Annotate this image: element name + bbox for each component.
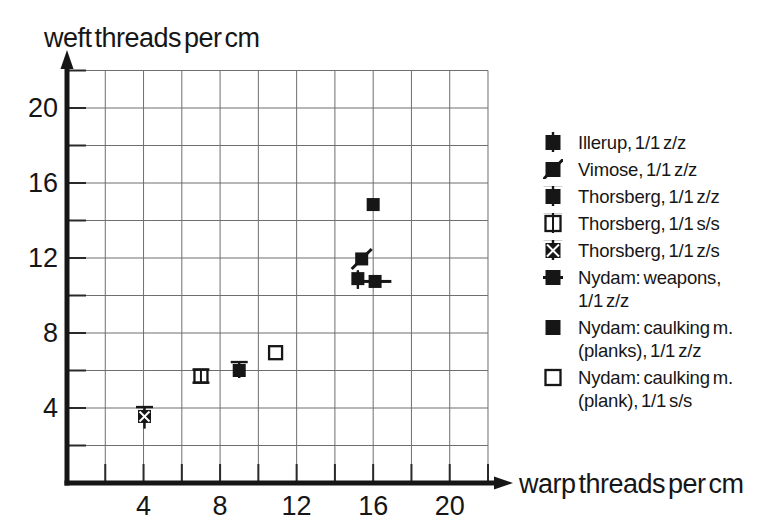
y-tick-label: 8 bbox=[43, 318, 58, 348]
x-tick-label: 16 bbox=[358, 491, 388, 521]
legend-marker-square-hline-icon bbox=[543, 267, 563, 287]
y-tick-label: 20 bbox=[28, 93, 58, 123]
data-point bbox=[367, 198, 380, 211]
legend-label: Illerup, 1/1 z/z bbox=[578, 131, 686, 154]
y-axis-arrowhead-icon bbox=[61, 50, 74, 69]
marker-square bbox=[367, 198, 380, 211]
marker-square bbox=[546, 370, 561, 385]
legend-marker-square-icon bbox=[543, 317, 563, 337]
data-point bbox=[351, 270, 364, 289]
x-tick-label: 8 bbox=[213, 491, 228, 521]
y-tick-label: 16 bbox=[28, 168, 58, 198]
legend-marker-square-slash-icon bbox=[543, 159, 563, 179]
x-tick-label: 20 bbox=[435, 491, 465, 521]
legend-item: Thorsberg, 1/1 z/z bbox=[543, 185, 781, 208]
plot-grid bbox=[67, 71, 488, 484]
legend-item: Nydam: weapons, 1/1 z/z bbox=[543, 266, 781, 312]
tick-labels: 4812162048121620 bbox=[28, 93, 465, 521]
scanned-scatter-figure: weft threads per cm 4812162048121620 war… bbox=[0, 0, 781, 531]
data-point bbox=[352, 249, 372, 269]
y-tick-label: 12 bbox=[28, 243, 58, 273]
data-point bbox=[192, 370, 209, 383]
marker-square bbox=[546, 270, 561, 285]
marker-square bbox=[546, 189, 561, 204]
legend-label: Thorsberg, 1/1 z/z bbox=[578, 185, 720, 208]
legend-item: Vimose, 1/1 z/z bbox=[543, 158, 781, 181]
legend-marker-square-tcap-icon bbox=[543, 186, 563, 206]
marker-square bbox=[546, 320, 561, 335]
y-tick-label: 4 bbox=[43, 393, 58, 423]
legend: Illerup, 1/1 z/zVimose, 1/1 z/zThorsberg… bbox=[543, 131, 781, 416]
legend-item: Nydam: caulking m. (plank), 1/1 s/s bbox=[543, 366, 781, 412]
legend-label: Nydam: weapons, 1/1 z/z bbox=[578, 266, 721, 312]
x-tick-label: 12 bbox=[282, 491, 312, 521]
legend-marker-osquare-ibeam-icon bbox=[543, 213, 563, 233]
marker-square bbox=[369, 275, 382, 288]
data-point bbox=[136, 407, 153, 429]
legend-marker-square-x-cap-icon bbox=[543, 240, 563, 260]
marker-square bbox=[351, 272, 364, 285]
data-point bbox=[269, 346, 282, 359]
legend-label: Vimose, 1/1 z/z bbox=[578, 158, 697, 181]
slash-mark bbox=[352, 249, 372, 269]
marker-square bbox=[269, 346, 282, 359]
marker-square bbox=[546, 135, 561, 150]
legend-item: Nydam: caulking m. (planks), 1/1 z/z bbox=[543, 316, 781, 362]
legend-marker-osquare-icon bbox=[543, 367, 563, 387]
legend-label: Nydam: caulking m. (plank), 1/1 s/s bbox=[578, 366, 733, 412]
data-point bbox=[364, 275, 392, 288]
marker-square bbox=[233, 364, 246, 377]
legend-marker-square-vline-icon bbox=[543, 132, 563, 152]
x-axis-title: warp threads per cm bbox=[519, 469, 744, 500]
legend-label: Nydam: caulking m. (planks), 1/1 z/z bbox=[578, 316, 733, 362]
x-axis-arrowhead-icon bbox=[494, 477, 513, 490]
legend-label: Thorsberg, 1/1 z/s bbox=[578, 239, 720, 262]
axis-ticks bbox=[69, 71, 488, 482]
data-point bbox=[231, 362, 248, 378]
legend-label: Thorsberg, 1/1 s/s bbox=[578, 212, 720, 235]
legend-item: Illerup, 1/1 z/z bbox=[543, 131, 781, 154]
legend-item: Thorsberg, 1/1 z/s bbox=[543, 239, 781, 262]
legend-item: Thorsberg, 1/1 s/s bbox=[543, 212, 781, 235]
x-tick-label: 4 bbox=[136, 491, 151, 521]
